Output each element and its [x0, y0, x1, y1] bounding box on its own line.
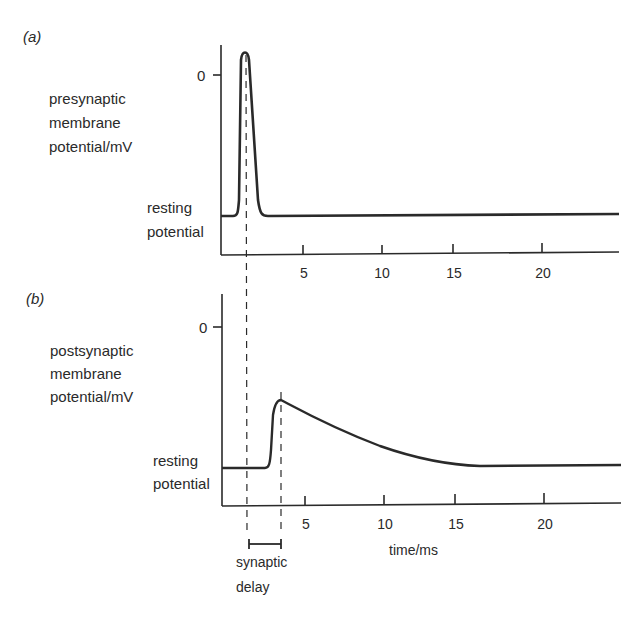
panel-b-tick-label-20: 20: [537, 516, 553, 532]
panel-a-tag: (a): [23, 27, 41, 46]
ylabel-line: potential/mV: [49, 137, 132, 156]
panel-b-x-axis: [222, 503, 621, 506]
panel-b-tick-label-15: 15: [448, 516, 464, 532]
resting-line: resting: [147, 198, 192, 217]
ylabel-line: potential/mV: [50, 387, 133, 406]
resting-line: potential: [147, 222, 204, 241]
ylabel-line: membrane: [50, 364, 122, 383]
presynaptic-trace: [221, 53, 619, 217]
resting-line: resting: [153, 451, 198, 470]
delay-line: synaptic: [236, 553, 287, 572]
panel-b-zero-label: 0: [199, 318, 207, 337]
panel-a-x-axis: [221, 252, 619, 255]
postsynaptic-trace: [222, 400, 621, 468]
synaptic-delay-bracket: [249, 539, 281, 549]
ylabel-line: presynaptic: [49, 89, 126, 108]
ylabel-line: membrane: [49, 113, 121, 132]
panel-a-tick-label-5: 5: [300, 265, 308, 281]
resting-line: potential: [153, 474, 210, 493]
panel-b-tag: (b): [26, 289, 44, 308]
panel-a-tick-label-15: 15: [446, 265, 462, 281]
panel-b-axes: [213, 294, 621, 506]
delay-line: delay: [236, 578, 269, 597]
panel-a-tick-label-20: 20: [535, 265, 551, 281]
panel-b-tick-label-5: 5: [302, 516, 310, 532]
panel-b-tick-label-10: 10: [377, 516, 393, 532]
panel-a-tick-label-10: 10: [374, 265, 390, 281]
x-axis-label: time/ms: [389, 541, 438, 560]
panel-a-zero-label: 0: [197, 66, 205, 85]
spike-peak-dashed-line: [246, 55, 247, 535]
ylabel-line: postsynaptic: [50, 341, 133, 360]
panel-a-axes: [213, 45, 619, 255]
